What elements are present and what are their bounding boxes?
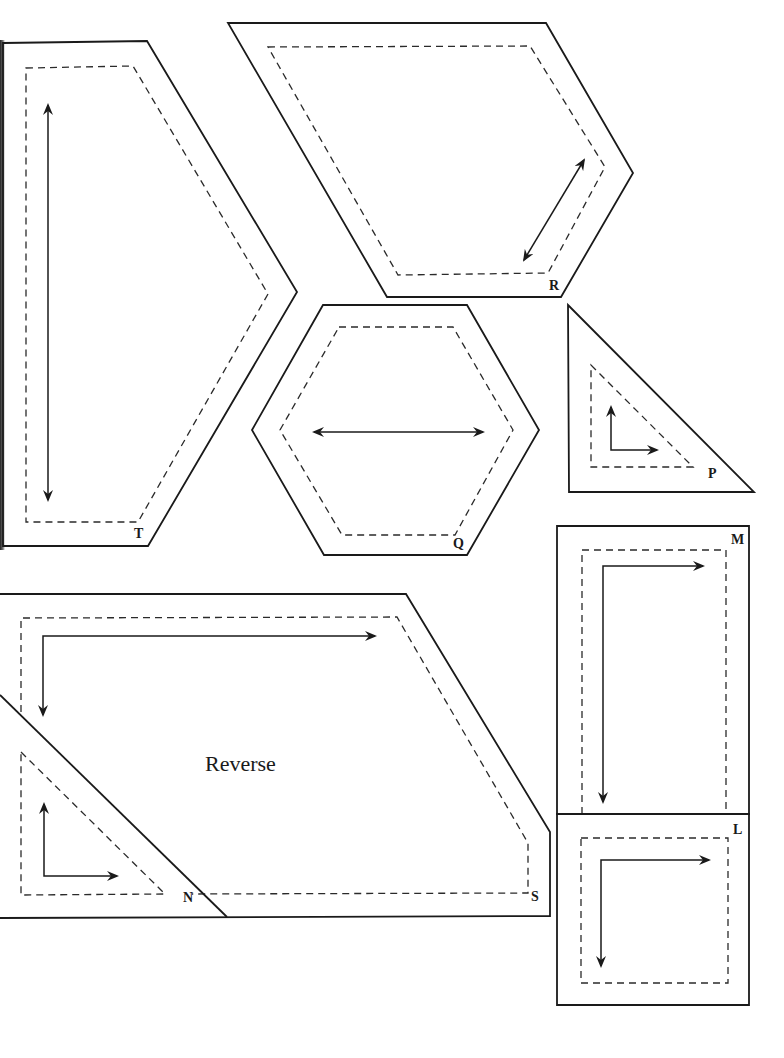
- piece-t-cut-line: [3, 41, 297, 546]
- piece-l-cut-line: [557, 814, 749, 1005]
- piece-r-grainline-arrow-icon: [524, 160, 584, 260]
- piece-p-cut-line: [568, 305, 754, 492]
- piece-n-seam-line: [21, 752, 165, 895]
- piece-r-cut-line: [228, 23, 633, 297]
- piece-p: P: [568, 305, 754, 492]
- piece-p-grainline-arrow-icon: [611, 407, 657, 450]
- piece-t-label: T: [134, 526, 144, 541]
- piece-q-cut-line: [252, 305, 539, 555]
- piece-n-cut-line: [0, 695, 227, 917]
- piece-m-label: M: [731, 532, 744, 547]
- piece-r: R: [228, 23, 633, 297]
- template-sheet: T R Q P M: [0, 0, 784, 1058]
- piece-l-grainline-arrow-icon: [601, 860, 709, 966]
- piece-l: L: [557, 814, 749, 1005]
- piece-t: T: [3, 41, 297, 546]
- piece-n-label: N: [183, 890, 193, 905]
- piece-m-cut-line: [557, 526, 749, 814]
- piece-s-grainline-arrow-icon: [43, 636, 375, 715]
- reverse-note: Reverse: [205, 751, 276, 776]
- template-diagram: T R Q P M: [0, 0, 784, 1058]
- piece-p-label: P: [708, 466, 717, 481]
- piece-q: Q: [252, 305, 539, 555]
- piece-m-grainline-arrow-icon: [603, 566, 703, 802]
- piece-n-grainline-arrow-icon: [44, 804, 117, 876]
- piece-r-label: R: [549, 278, 560, 293]
- piece-q-label: Q: [453, 536, 464, 551]
- piece-s: S Reverse: [0, 594, 550, 918]
- piece-r-seam-line: [268, 46, 605, 275]
- piece-t-seam-line: [26, 66, 268, 522]
- piece-l-label: L: [733, 822, 742, 837]
- piece-n: N: [0, 695, 227, 917]
- piece-m: M: [557, 526, 749, 814]
- piece-q-seam-line: [280, 327, 513, 535]
- piece-s-label: S: [531, 889, 539, 904]
